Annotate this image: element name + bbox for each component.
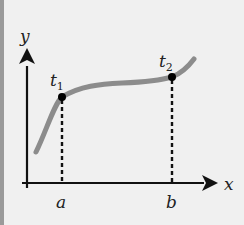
y-axis-arrow-icon — [19, 48, 35, 64]
t2-label: t2 — [159, 51, 173, 74]
a-label: a — [56, 192, 66, 212]
diagram-canvas: y x t1 t2 a b — [0, 0, 244, 225]
x-axis-label: x — [224, 174, 234, 194]
y-axis-label: y — [19, 26, 30, 46]
t1-label: t1 — [50, 70, 64, 93]
diagram-frame: y x t1 t2 a b — [0, 0, 244, 225]
point-t2 — [168, 73, 176, 81]
x-axis-arrow-icon — [202, 175, 218, 191]
point-t1 — [58, 93, 66, 101]
b-label: b — [166, 192, 177, 212]
